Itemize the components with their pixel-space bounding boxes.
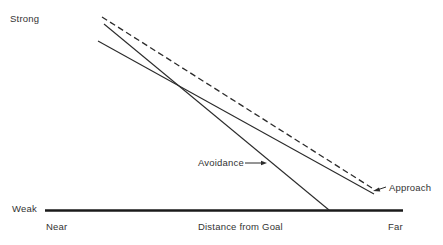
avoidance-label: Avoidance (198, 157, 244, 168)
avoidance-line (104, 24, 329, 210)
y-label-strong: Strong (10, 13, 39, 24)
approach-label: Approach (389, 182, 431, 193)
gradient-chart (0, 0, 443, 245)
avoidance-arrowhead-icon (261, 161, 267, 165)
y-label-weak: Weak (12, 203, 37, 214)
approach-line (98, 41, 374, 194)
approach-arrowhead-icon (373, 187, 380, 191)
x-label-far: Far (388, 221, 403, 232)
x-axis-title: Distance from Goal (198, 221, 283, 232)
x-label-near: Near (46, 221, 67, 232)
